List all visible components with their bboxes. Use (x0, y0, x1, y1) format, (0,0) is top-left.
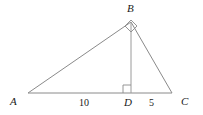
right-angle-marker-d (123, 85, 131, 93)
measure-label-dc: 5 (149, 98, 154, 108)
triangle-figure (0, 0, 203, 115)
vertex-label-d: D (124, 97, 132, 108)
measure-label-ad: 10 (79, 98, 89, 108)
vertex-label-a: A (10, 96, 17, 107)
vertex-label-c: C (181, 96, 188, 107)
geometry-diagram: A B C D 10 5 (0, 0, 203, 115)
segment-bc (131, 22, 172, 93)
segment-ab (28, 22, 131, 93)
vertex-label-b: B (127, 3, 134, 14)
